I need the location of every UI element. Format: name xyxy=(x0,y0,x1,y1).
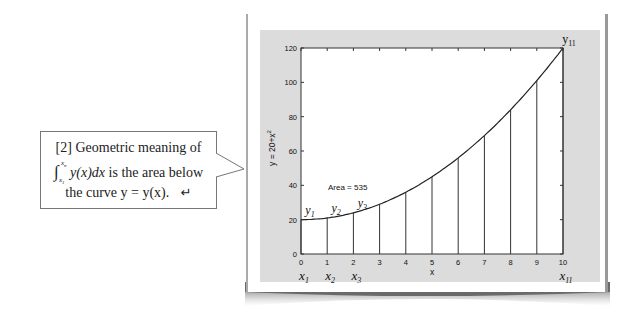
x-tick-label: 4 xyxy=(404,258,408,267)
point-label-x: x1 xyxy=(298,268,309,285)
y-tick-label: 100 xyxy=(284,78,297,87)
x-tick-label: 3 xyxy=(378,258,382,267)
y-tick-label: 60 xyxy=(289,147,297,156)
y-tick-label: 80 xyxy=(289,113,297,122)
x-tick-label: 9 xyxy=(535,258,539,267)
x-tick-label: 2 xyxy=(351,258,355,267)
y-tick-label: 0 xyxy=(293,250,297,259)
x-axis-label: x xyxy=(430,267,435,277)
x-tick-label: 0 xyxy=(299,258,303,267)
x-tick-label: 1 xyxy=(325,258,329,267)
x-tick-label: 5 xyxy=(430,258,434,267)
area-annotation: Area = 535 xyxy=(328,183,368,192)
area-chart: 020406080100120 012345678910 Area = 535 … xyxy=(0,0,638,331)
point-label-x: x11 xyxy=(558,268,572,285)
x-tick-label: 8 xyxy=(509,258,513,267)
point-labels-x: x1x2x3x11 xyxy=(298,268,572,285)
y-tick-label: 120 xyxy=(284,44,297,53)
x-tick-label: 7 xyxy=(482,258,486,267)
x-tick-label: 10 xyxy=(559,258,567,267)
y-tick-label: 40 xyxy=(289,181,297,190)
point-label-x: x2 xyxy=(324,268,335,285)
x-tick-label: 6 xyxy=(456,258,460,267)
y-axis-label: y = 20+x2 xyxy=(266,129,277,166)
point-label-x: x3 xyxy=(351,268,362,285)
point-label-y: y11 xyxy=(562,32,576,48)
y-tick-label: 20 xyxy=(289,216,297,225)
